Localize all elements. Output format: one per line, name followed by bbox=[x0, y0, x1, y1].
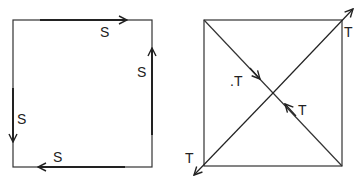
label-s-bottom: S bbox=[53, 149, 62, 165]
right-square-diagram: T .T T T bbox=[185, 9, 353, 175]
label-t-center-left: .T bbox=[230, 73, 243, 89]
left-square-diagram: S S S S bbox=[13, 20, 152, 167]
diagram-canvas: S S S S T .T T T bbox=[0, 0, 359, 182]
diagonal-arrow-down-left bbox=[194, 93, 273, 175]
label-s-right: S bbox=[137, 64, 146, 80]
label-t-center-right: T bbox=[298, 102, 307, 118]
tension-arrow-lower bbox=[285, 104, 296, 116]
label-t-top-right: T bbox=[344, 24, 353, 40]
tension-arrow-upper bbox=[250, 68, 260, 79]
label-t-bottom-left: T bbox=[185, 150, 194, 166]
label-s-top: S bbox=[100, 24, 109, 40]
diagonal-arrow-up-right bbox=[273, 9, 353, 93]
left-square-frame bbox=[13, 20, 152, 167]
label-s-left: S bbox=[17, 111, 26, 127]
